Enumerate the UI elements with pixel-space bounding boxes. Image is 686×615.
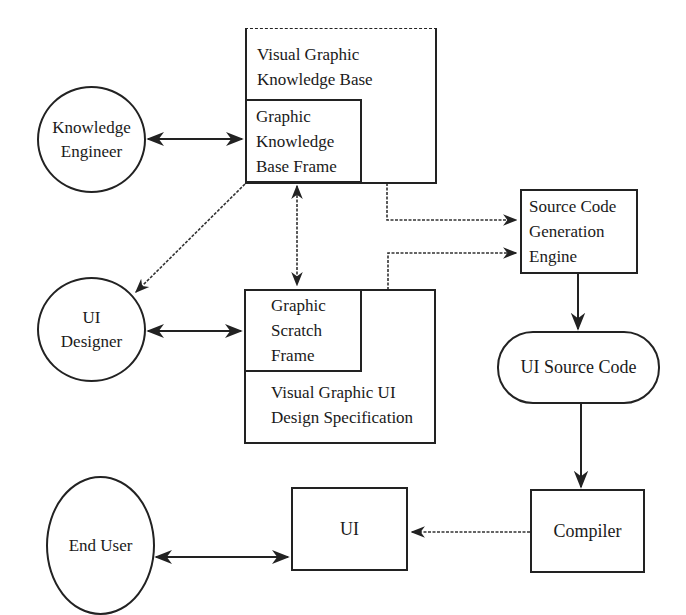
- compiler-label: Compiler: [554, 519, 622, 544]
- node-ui-source-code: UI Source Code: [497, 331, 660, 404]
- edge-vgkb-scge: [387, 183, 516, 220]
- ui-designer-label: UI Designer: [61, 306, 122, 354]
- node-compiler: Compiler: [530, 489, 645, 573]
- knowledge-engineer-label: Knowledge Engineer: [52, 116, 130, 164]
- node-graphic-kb-frame: Graphic Knowledge Base Frame: [245, 99, 362, 183]
- node-source-code-generation-engine: Source Code Generation Engine: [520, 189, 638, 274]
- ui-source-code-label: UI Source Code: [521, 355, 637, 380]
- source-code-gen-label: Source Code Generation Engine: [529, 194, 616, 269]
- graphic-kb-frame-label: Graphic Knowledge Base Frame: [256, 104, 337, 179]
- node-end-user: End User: [46, 476, 155, 615]
- node-ui: UI: [291, 487, 408, 571]
- visual-graphic-kb-label: Visual Graphic Knowledge Base: [257, 42, 373, 92]
- ui-label: UI: [340, 517, 359, 542]
- node-graphic-scratch-frame: Graphic Scratch Frame: [244, 289, 362, 372]
- end-user-label: End User: [69, 533, 133, 558]
- node-ui-designer: UI Designer: [37, 277, 146, 382]
- graphic-scratch-frame-label: Graphic Scratch Frame: [271, 293, 326, 368]
- edge-vguispec-scge: [388, 253, 516, 290]
- visual-graphic-ui-spec-label: Visual Graphic UI Design Specification: [271, 380, 413, 430]
- node-knowledge-engineer: Knowledge Engineer: [37, 86, 146, 193]
- edge-gkbframe-designer: [136, 184, 245, 292]
